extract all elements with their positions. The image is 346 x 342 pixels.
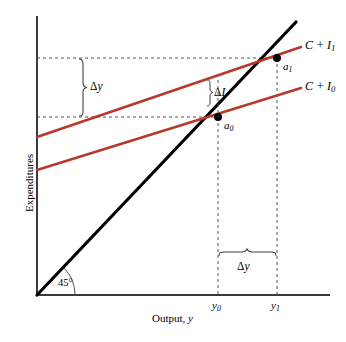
x-axis-label: Output, y — [152, 313, 193, 324]
curve-label-low-subscript: 0 — [331, 84, 335, 94]
curve-label-high: C + I1 — [305, 39, 335, 53]
point-label-a1-subscript: 1 — [289, 65, 293, 74]
brace-delta-i — [207, 80, 213, 106]
brace-delta-y-horizontal — [219, 249, 276, 256]
brace-delta-y-vertical — [79, 59, 87, 116]
curve-label-low-prefix: C + I — [305, 79, 331, 93]
x-tick-label-y1: y1 — [271, 300, 280, 313]
point-label-a1: a1 — [283, 61, 292, 74]
annotation-delta-i: ΔI — [214, 87, 225, 99]
delta-var-3: y — [244, 260, 249, 272]
delta-var-1: y — [97, 80, 102, 92]
x-tick-label-y1-subscript: 1 — [276, 304, 280, 313]
x-axis-label-text: Output, — [152, 312, 188, 324]
figure-canvas — [0, 0, 346, 342]
curve-label-high-prefix: C + I — [305, 38, 331, 52]
y-axis-label: Expenditures — [24, 154, 35, 212]
angle-label: 45° — [58, 278, 73, 289]
annotation-delta-y-vertical: Δy — [90, 81, 103, 93]
delta-var-2: I — [221, 86, 225, 98]
x-axis-label-var: y — [188, 312, 193, 324]
point-label-a0-subscript: 0 — [230, 124, 234, 133]
curve-label-high-subscript: 1 — [331, 43, 335, 53]
keynesian-cross-figure: Expenditures Output, y 45° C + I1 C + I0… — [0, 0, 346, 342]
expenditure-line-high — [37, 47, 301, 137]
x-tick-label-y0: y0 — [212, 300, 221, 313]
point-label-a0: a0 — [224, 120, 233, 133]
annotation-delta-y-horizontal: Δy — [237, 261, 250, 273]
x-tick-label-y0-subscript: 0 — [217, 304, 221, 313]
curve-label-low: C + I0 — [305, 80, 335, 94]
equilibrium-point-a1 — [273, 54, 281, 62]
